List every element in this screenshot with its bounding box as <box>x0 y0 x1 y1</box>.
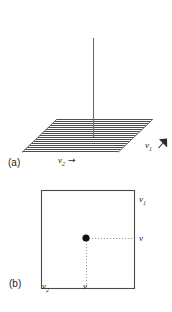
panel-b-point-v-bottom: v <box>83 282 87 291</box>
panel-b-axis-v1-label: v1 <box>139 195 146 206</box>
marked-point <box>82 234 89 241</box>
panel-a-axis-v2-label: v2→ <box>58 156 73 167</box>
panel-b-axis-v2-label: v2 <box>42 282 49 293</box>
v1-arrow-icon <box>159 139 167 148</box>
v2-arrow-icon: → <box>68 155 76 165</box>
panel-a-axis-v1-sub: 1 <box>149 146 152 152</box>
panel-b: (b) v1 v v2 v <box>0 178 172 312</box>
panel-a-axis-v1-label: v1 <box>145 141 152 152</box>
panel-a-axis-v2-sub: 2 <box>62 161 65 167</box>
panel-b-point-v-right: v <box>139 234 143 243</box>
panel-b-axis-v1-sub: 1 <box>143 200 146 206</box>
panel-b-caption: (b) <box>9 279 21 289</box>
panel-a: (a) v2→ v1 <box>0 0 172 178</box>
panel-a-caption: (a) <box>8 158 20 168</box>
panel-b-graphic <box>0 178 172 312</box>
panel-b-axis-v2-sub: 2 <box>46 287 49 293</box>
figure-root: (a) v2→ v1 (b) v1 v v2 v <box>0 0 172 312</box>
